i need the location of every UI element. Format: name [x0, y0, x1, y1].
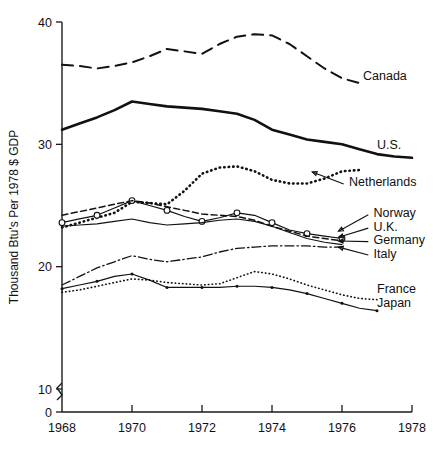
series-label-us: U.S.: [377, 138, 401, 152]
y-axis-title: Thousand Btu's Per 1978 $ GDP: [7, 130, 21, 304]
leader-line-netherlands: [312, 172, 343, 184]
chart-canvas: 010203040 196819701972197419761978 Thous…: [0, 0, 433, 463]
series-marker: [269, 220, 275, 226]
x-tick-label: 1976: [328, 421, 356, 435]
series-marker: [131, 273, 134, 276]
series-marker: [341, 302, 344, 305]
y-tick-label: 40: [38, 16, 52, 30]
series-marker: [199, 219, 205, 225]
y-tick-label: 0: [45, 406, 52, 420]
series-label-canada: Canada: [363, 69, 407, 83]
y-tick-label: 30: [38, 138, 52, 152]
series-marker: [164, 207, 170, 213]
series-marker: [376, 309, 379, 312]
series-label-japan: Japan: [377, 296, 411, 310]
series-marker: [61, 287, 64, 290]
x-tick-label: 1974: [258, 421, 286, 435]
series-marker: [201, 286, 204, 289]
energy-intensity-chart: 010203040 196819701972197419761978 Thous…: [0, 0, 433, 463]
x-tick-label: 1968: [48, 421, 76, 435]
data-series: [59, 34, 412, 312]
y-tick-label: 10: [38, 383, 52, 397]
series-labels: CanadaU.S.NetherlandsNorwayU.K.GermanyIt…: [349, 69, 426, 309]
series-label-france: France: [377, 282, 416, 296]
series-marker: [166, 286, 169, 289]
y-tick-label: 20: [38, 260, 52, 274]
x-axis-ticks: 196819701972197419761978: [48, 405, 426, 435]
x-tick-label: 1970: [118, 421, 146, 435]
series-label-italy: Italy: [374, 247, 398, 261]
x-tick-label: 1972: [188, 421, 216, 435]
series-line-japan: [62, 274, 377, 311]
series-marker: [96, 280, 99, 283]
series-marker: [94, 212, 100, 218]
series-line-france: [62, 272, 377, 300]
series-marker: [234, 210, 240, 216]
series-line-canada: [62, 34, 360, 83]
series-label-uk: U.K.: [374, 220, 398, 234]
x-tick-label: 1978: [398, 421, 426, 435]
series-marker: [271, 286, 274, 289]
y-axis-ticks: 010203040: [38, 16, 62, 420]
series-label-netherlands: Netherlands: [349, 175, 416, 189]
axis-break-symbol: [57, 383, 62, 400]
series-marker: [236, 285, 239, 288]
series-label-norway: Norway: [374, 206, 417, 220]
series-label-germany: Germany: [374, 233, 426, 247]
series-line-netherlands: [62, 166, 360, 227]
series-line-us: [62, 102, 412, 158]
series-marker: [59, 220, 65, 226]
series-marker: [306, 292, 309, 295]
leader-arrow-netherlands: [312, 172, 317, 176]
